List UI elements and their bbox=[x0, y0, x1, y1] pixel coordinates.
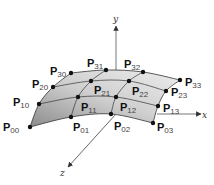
label-p33: P33 bbox=[185, 76, 202, 90]
label-p30: P30 bbox=[50, 65, 67, 79]
control-point-p21 bbox=[89, 79, 93, 83]
bezier-patch-diagram: xyz P00P01P02P03P10P11P12P13P20P21P22P23… bbox=[0, 0, 214, 185]
control-point-p01 bbox=[69, 115, 73, 119]
label-p13: P13 bbox=[163, 102, 180, 116]
label-p02: P02 bbox=[114, 120, 131, 134]
label-p00: P00 bbox=[3, 121, 20, 135]
control-point-p22 bbox=[127, 79, 131, 83]
label-p23: P23 bbox=[171, 86, 188, 100]
control-point-p02 bbox=[109, 112, 113, 116]
surface-patch bbox=[30, 70, 180, 127]
label-p31: P31 bbox=[87, 57, 104, 71]
control-point-p00 bbox=[28, 125, 32, 129]
y-axis-label: y bbox=[112, 14, 119, 24]
z-axis-label: z bbox=[59, 168, 65, 178]
label-p32: P32 bbox=[124, 58, 141, 72]
label-p20: P20 bbox=[32, 78, 49, 92]
control-point-p12 bbox=[114, 95, 118, 99]
control-point-p11 bbox=[76, 95, 80, 99]
control-point-p20 bbox=[51, 85, 55, 89]
control-point-p03 bbox=[151, 121, 155, 125]
control-point-p13 bbox=[156, 104, 160, 108]
control-point-p32 bbox=[141, 70, 145, 74]
label-p03: P03 bbox=[157, 121, 174, 135]
control-point-p10 bbox=[37, 102, 41, 106]
control-point-p23 bbox=[164, 89, 168, 93]
label-p01: P01 bbox=[73, 121, 90, 135]
control-point-p31 bbox=[104, 68, 108, 72]
x-axis-label: x bbox=[202, 110, 207, 120]
control-point-p30 bbox=[69, 71, 73, 75]
label-p10: P10 bbox=[13, 96, 30, 110]
control-point-p33 bbox=[178, 78, 182, 82]
